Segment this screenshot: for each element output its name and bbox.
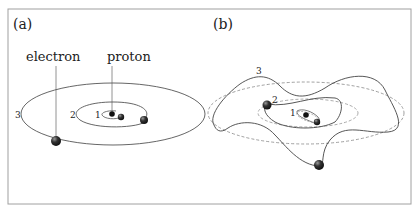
orbit-3-perturbed [213, 76, 399, 166]
electron-orbit-3 [51, 136, 61, 146]
electron-orbit-2-b [263, 101, 272, 110]
electron-orbit-2 [140, 116, 148, 124]
orbit-2-label-b: 2 [272, 95, 278, 105]
figure-frame [8, 9, 411, 204]
panel-b: (b) 3 2 1 [208, 16, 404, 170]
electron-orbit-1-b [314, 119, 320, 125]
panel-a: (a) electron proton 3 2 1 [13, 16, 205, 146]
orbit-3-label: 3 [15, 110, 21, 120]
orbit-2-label: 2 [70, 110, 76, 120]
panel-a-label: (a) [13, 16, 32, 32]
orbit-3-label-b: 3 [256, 66, 262, 76]
panel-b-label: (b) [213, 16, 233, 32]
orbit-1-label: 1 [95, 110, 101, 120]
proton-label: proton [107, 49, 151, 64]
electron-orbit-3-b [314, 160, 324, 170]
electron-orbit-1 [118, 114, 124, 120]
proton [109, 111, 115, 117]
electron-label: electron [26, 49, 81, 64]
atom-orbit-diagram: (a) electron proton 3 2 1 (b) 3 2 1 [0, 0, 420, 215]
proton-b [303, 112, 309, 118]
orbit-1-label-b: 1 [290, 108, 296, 118]
